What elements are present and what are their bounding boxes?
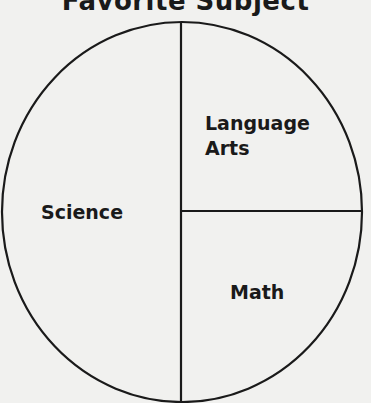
slice-label-math: Math — [230, 280, 284, 305]
slice-label-language-arts-line1: Language — [205, 111, 310, 136]
slice-label-science: Science — [41, 200, 123, 225]
slice-label-language-arts-line2: Arts — [205, 136, 249, 161]
